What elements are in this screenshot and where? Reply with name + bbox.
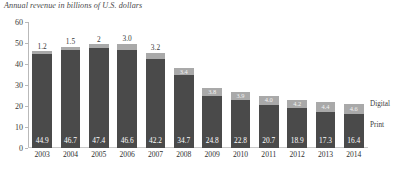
bar-group[interactable]: 4.218.9 [287, 100, 307, 149]
chart-root: Annual revenue in billions of U.S. dolla… [0, 0, 395, 170]
x-tick-label: 2005 [85, 150, 113, 159]
bar-segment-digital[interactable]: 4.4 [316, 102, 336, 111]
bar-value-label-print: 20.7 [259, 137, 279, 144]
x-tick-label: 2013 [311, 150, 339, 159]
x-tick-label: 2012 [283, 150, 311, 159]
legend-label: Digital [370, 100, 390, 108]
bar-group[interactable]: 4.616.4 [344, 104, 364, 148]
x-tick-label: 2006 [113, 150, 141, 159]
legend-label: Print [370, 121, 384, 129]
bar-value-label-digital: 3.2 [146, 44, 166, 51]
bar-group[interactable]: 3.242.2 [146, 53, 166, 148]
bar-value-label-digital: 1.2 [32, 43, 52, 50]
bar-value-label-print: 46.7 [61, 137, 81, 144]
bar-value-label-digital: 3.9 [231, 93, 251, 99]
bar-segment-print[interactable]: 42.2 [146, 59, 166, 148]
bar-value-label-print: 17.3 [316, 137, 336, 144]
bar-group[interactable]: 3.922.8 [231, 92, 251, 148]
bar-value-label-print: 47.4 [89, 137, 109, 144]
x-tick-label: 2009 [198, 150, 226, 159]
bar-value-label-print: 16.4 [344, 137, 364, 144]
legend-item[interactable]: Print [370, 119, 390, 130]
bar-group[interactable]: 3.434.7 [174, 68, 194, 148]
bar-value-label-print: 22.8 [231, 137, 251, 144]
bar-segment-print[interactable]: 17.3 [316, 112, 336, 148]
bar-segment-print[interactable]: 46.7 [61, 50, 81, 148]
bar-value-label-digital: 1.5 [61, 38, 81, 45]
bar-group[interactable]: 4.020.7 [259, 96, 279, 148]
bar-group[interactable]: 3.046.6 [117, 44, 137, 148]
bar-value-label-print: 42.2 [146, 137, 166, 144]
bar-group[interactable]: 3.824.8 [202, 88, 222, 148]
bar-segment-print[interactable]: 46.6 [117, 50, 137, 148]
bar-value-label-digital: 3.4 [174, 68, 194, 74]
bar-segment-print[interactable]: 16.4 [344, 114, 364, 148]
bar-segment-digital[interactable]: 3.2 [146, 53, 166, 60]
legend-item[interactable]: Digital [370, 98, 390, 109]
y-tick-label: 50 [15, 39, 23, 48]
y-tick-mark [25, 148, 28, 149]
x-tick-label: 2010 [226, 150, 254, 159]
bar-value-label-digital: 4.4 [316, 104, 336, 110]
bar-segment-digital[interactable]: 4.6 [344, 104, 364, 114]
bar-segment-digital[interactable]: 3.9 [231, 92, 251, 100]
bar-segment-print[interactable]: 22.8 [231, 100, 251, 148]
x-tick-label: 2014 [340, 150, 368, 159]
bar-segment-print[interactable]: 20.7 [259, 105, 279, 148]
bar-group[interactable]: 247.4 [89, 44, 109, 148]
x-tick-label: 2007 [141, 150, 169, 159]
bar-value-label-digital: 3.0 [117, 35, 137, 42]
bar-segment-print[interactable]: 18.9 [287, 108, 307, 148]
y-tick-label: 40 [15, 60, 23, 69]
chart-title: Annual revenue in billions of U.S. dolla… [4, 1, 142, 10]
x-tick-label: 2008 [170, 150, 198, 159]
bar-group[interactable]: 1.244.9 [32, 51, 52, 148]
x-axis-labels: 2003200420052006200720082009201020112012… [28, 150, 368, 164]
bar-value-label-print: 34.7 [174, 137, 194, 144]
bar-segment-digital[interactable]: 3.8 [202, 88, 222, 96]
bar-segment-digital[interactable]: 4.0 [259, 96, 279, 104]
bar-value-label-digital: 4.2 [287, 101, 307, 107]
plot-area: 0102030405060 1.244.91.546.7247.43.046.6… [28, 22, 368, 148]
x-tick-label: 2003 [28, 150, 56, 159]
y-tick-label: 30 [15, 81, 23, 90]
x-tick-label: 2004 [56, 150, 84, 159]
y-tick-label: 60 [15, 18, 23, 27]
y-tick-label: 0 [19, 144, 23, 153]
bar-value-label-digital: 2 [89, 36, 109, 43]
bar-segment-digital[interactable]: 3.4 [174, 68, 194, 75]
x-tick-label: 2011 [255, 150, 283, 159]
bar-segment-print[interactable]: 34.7 [174, 75, 194, 148]
bar-segment-print[interactable]: 44.9 [32, 54, 52, 148]
bar-segment-print[interactable]: 47.4 [89, 48, 109, 148]
chart-legend: DigitalPrint [370, 98, 390, 130]
bar-value-label-print: 46.6 [117, 137, 137, 144]
bar-value-label-print: 18.9 [287, 137, 307, 144]
bar-segment-print[interactable]: 24.8 [202, 96, 222, 148]
bar-segment-digital[interactable]: 4.2 [287, 100, 307, 109]
y-tick-label: 20 [15, 102, 23, 111]
y-tick-label: 10 [15, 123, 23, 132]
bar-value-label-digital: 3.8 [202, 89, 222, 95]
bar-value-label-digital: 4.0 [259, 97, 279, 103]
bar-group[interactable]: 4.417.3 [316, 102, 336, 148]
bar-value-label-print: 44.9 [32, 137, 52, 144]
bar-series-container: 1.244.91.546.7247.43.046.63.242.23.434.7… [28, 22, 368, 148]
bar-value-label-digital: 4.6 [344, 106, 364, 112]
bar-value-label-print: 24.8 [202, 137, 222, 144]
bar-group[interactable]: 1.546.7 [61, 47, 81, 148]
